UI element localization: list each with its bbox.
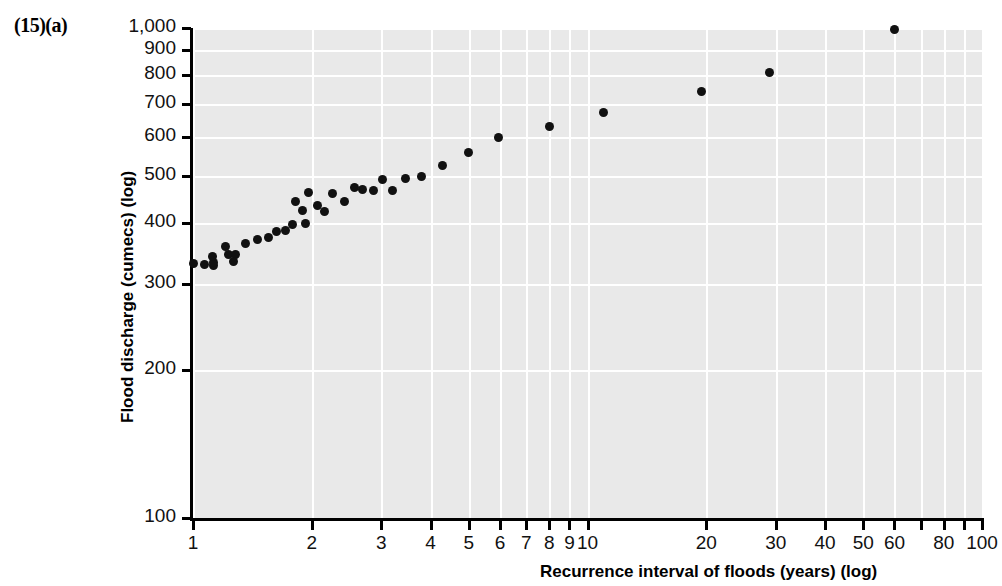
x-gridline <box>825 28 827 518</box>
x-tick-mark <box>981 521 984 530</box>
x-tick-mark <box>525 521 528 530</box>
y-tick-label: 200 <box>88 357 176 379</box>
y-tick-label: 800 <box>88 62 176 84</box>
y-gridline <box>193 75 982 77</box>
y-tick-mark <box>182 136 191 139</box>
x-tick-mark <box>568 521 571 530</box>
y-tick-label: 100 <box>88 505 176 527</box>
x-tick-label: 2 <box>282 532 342 554</box>
x-gridline <box>312 28 314 518</box>
x-tick-mark <box>587 521 590 530</box>
x-gridline <box>894 28 896 518</box>
y-tick-mark <box>182 222 191 225</box>
x-tick-mark <box>548 521 551 530</box>
y-tick-label: 500 <box>88 163 176 185</box>
y-gridline <box>193 137 982 139</box>
x-tick-mark <box>943 521 946 530</box>
y-tick-label: 900 <box>88 37 176 59</box>
x-tick-mark <box>705 521 708 530</box>
y-tick-label: 700 <box>88 91 176 113</box>
x-axis-title: Recurrence interval of floods (years) (l… <box>540 562 877 582</box>
x-tick-mark <box>862 521 865 530</box>
x-gridline <box>982 28 984 518</box>
y-gridline <box>193 104 982 106</box>
data-point <box>304 188 313 197</box>
y-tick-label: 600 <box>88 124 176 146</box>
x-gridline <box>469 28 471 518</box>
x-tick-mark <box>775 521 778 530</box>
y-gridline <box>193 50 982 52</box>
data-point <box>298 206 307 215</box>
y-gridline <box>193 28 982 30</box>
data-point <box>765 68 774 77</box>
y-tick-mark <box>182 283 191 286</box>
y-tick-label: 400 <box>88 210 176 232</box>
y-gridline <box>193 223 982 225</box>
x-tick-mark <box>920 521 923 530</box>
x-gridline <box>863 28 865 518</box>
data-point <box>890 25 899 34</box>
y-tick-mark <box>182 27 191 30</box>
y-tick-label: 1,000 <box>88 15 176 37</box>
data-point <box>369 186 378 195</box>
x-gridline <box>588 28 590 518</box>
x-gridline <box>500 28 502 518</box>
x-gridline <box>526 28 528 518</box>
data-point <box>264 233 273 242</box>
x-tick-label: 1 <box>163 532 223 554</box>
data-point <box>320 207 329 216</box>
x-tick-mark <box>468 521 471 530</box>
y-tick-mark <box>182 74 191 77</box>
x-tick-label: 20 <box>676 532 736 554</box>
x-gridline <box>921 28 923 518</box>
x-tick-mark <box>311 521 314 530</box>
x-gridline <box>706 28 708 518</box>
x-gridline <box>381 28 383 518</box>
x-gridline <box>964 28 966 518</box>
x-tick-label: 100 <box>952 532 1002 554</box>
x-gridline <box>944 28 946 518</box>
y-tick-mark <box>182 517 191 520</box>
y-tick-label: 300 <box>88 271 176 293</box>
x-gridline <box>193 28 195 518</box>
x-tick-mark <box>824 521 827 530</box>
panel-label: (15)(a) <box>14 14 67 37</box>
y-axis-title: Flood discharge (cumecs) (log) <box>118 171 138 423</box>
data-point <box>189 259 198 268</box>
x-gridline <box>569 28 571 518</box>
x-tick-label: 10 <box>558 532 618 554</box>
y-tick-mark <box>182 175 191 178</box>
x-tick-mark <box>430 521 433 530</box>
x-tick-mark <box>963 521 966 530</box>
data-point <box>358 185 367 194</box>
x-gridline <box>431 28 433 518</box>
x-tick-mark <box>380 521 383 530</box>
x-gridline <box>549 28 551 518</box>
y-gridline <box>193 176 982 178</box>
y-tick-mark <box>182 49 191 52</box>
x-gridline <box>776 28 778 518</box>
y-tick-mark <box>182 369 191 372</box>
y-gridline <box>193 370 982 372</box>
y-tick-mark <box>182 103 191 106</box>
x-tick-mark <box>893 521 896 530</box>
data-point <box>241 239 250 248</box>
x-tick-mark <box>499 521 502 530</box>
x-tick-mark <box>192 521 195 530</box>
y-gridline <box>193 284 982 286</box>
data-point <box>291 197 300 206</box>
